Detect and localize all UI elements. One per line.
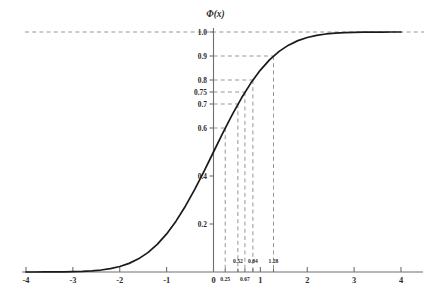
y-tick-label-0.7: 0.7 — [198, 100, 208, 109]
y-tick-label-1.0: 1.0 — [198, 28, 208, 37]
x-tick-label--1: -1 — [163, 276, 170, 285]
x-tick-label-1: 1 — [258, 276, 262, 285]
x-tick-label-2: 2 — [305, 276, 309, 285]
x-tick-label--4: -4 — [23, 276, 31, 285]
labels-group: Φ(x) — [206, 9, 224, 20]
x-minor-label-1.28: 1.28 — [269, 258, 279, 264]
y-tick-label-0.75: 0.75 — [194, 88, 207, 97]
x-tick-label--2: -2 — [116, 276, 123, 285]
guide-lines-group — [214, 56, 274, 272]
x-tick-label-3: 3 — [352, 276, 356, 285]
x-minor-label-0.67: 0.67 — [240, 276, 250, 282]
x-tick-label--3: -3 — [69, 276, 76, 285]
y-axis-group: 0.20.40.60.70.750.80.91.0 — [194, 28, 213, 272]
y-tick-label-0.9: 0.9 — [198, 52, 208, 61]
x-tick-label-4: 4 — [399, 276, 404, 285]
chart-canvas: 0.20.40.60.70.750.80.91.0 -4-3-2-1012340… — [0, 0, 427, 300]
x-tick-label-0: 0 — [211, 276, 215, 285]
y-tick-label-0.8: 0.8 — [198, 76, 208, 85]
y-tick-label-0.6: 0.6 — [198, 124, 208, 133]
x-minor-label-0.84: 0.84 — [248, 258, 258, 264]
cdf-plot: 0.20.40.60.70.750.80.91.0 -4-3-2-1012340… — [0, 0, 427, 300]
chart-title: Φ(x) — [206, 9, 224, 20]
y-tick-label-0.2: 0.2 — [198, 220, 208, 229]
x-minor-label-0.25: 0.25 — [220, 276, 230, 282]
x-minor-label-0.52: 0.52 — [233, 258, 243, 264]
